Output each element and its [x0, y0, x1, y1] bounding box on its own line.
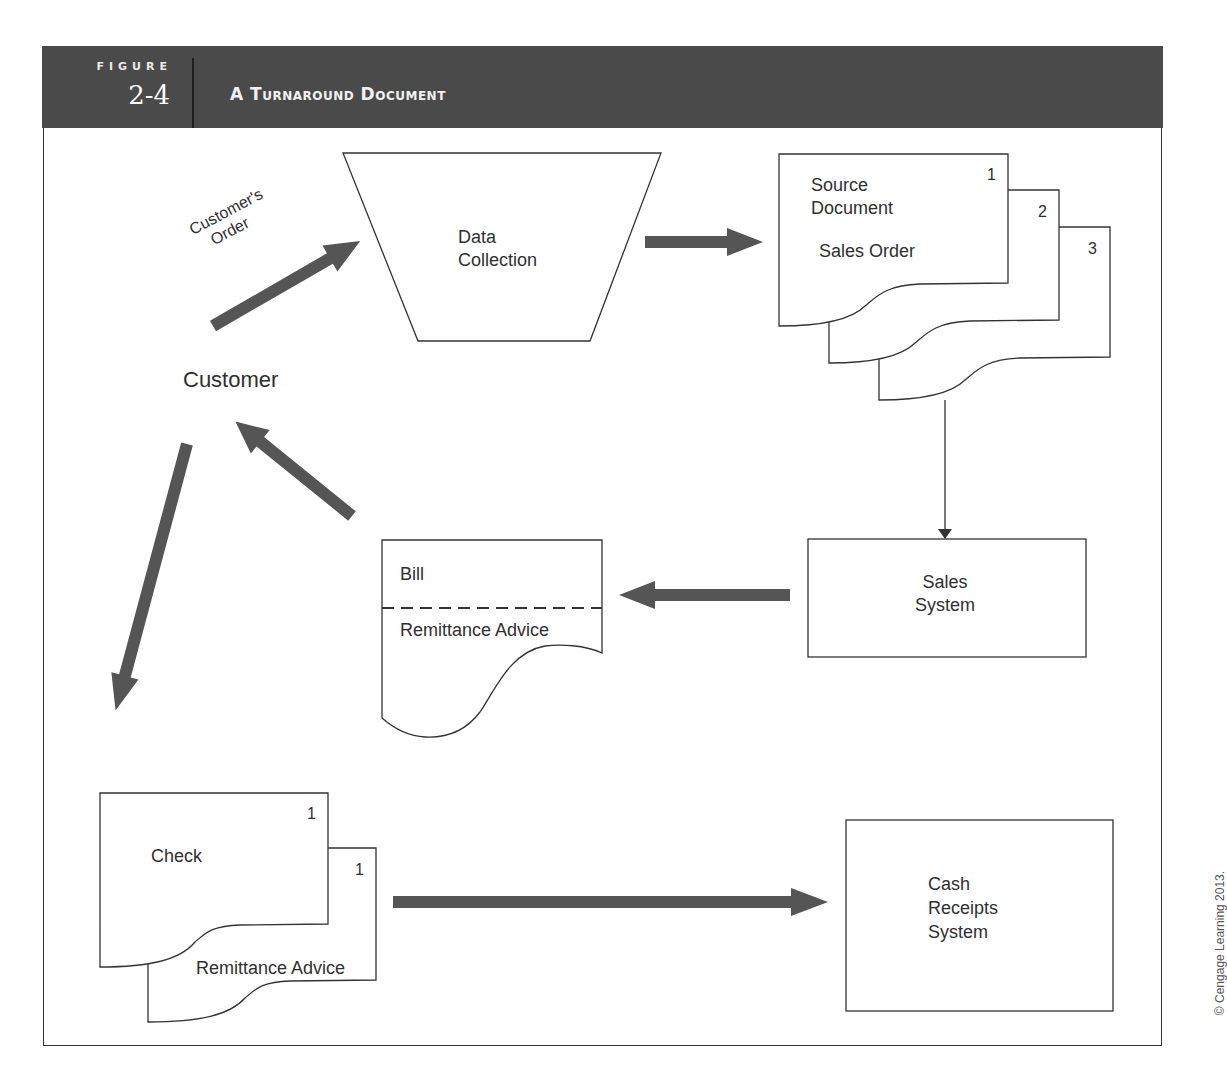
- cash-receipts-line-1: Cash: [928, 872, 998, 896]
- bill-to-customer-arrow-icon: [226, 410, 361, 528]
- cash-receipts-label: Cash Receipts System: [928, 872, 998, 944]
- copyright-notice: © Cengage Learning 2013.: [1213, 858, 1227, 1028]
- cash-receipts-line-2: Receipts: [928, 896, 998, 920]
- check-copy-number: 1: [307, 802, 316, 825]
- check-label: Check: [151, 845, 202, 868]
- data-collection-line-1: Data: [458, 226, 537, 249]
- sales-system-label: Sales System: [880, 571, 1010, 617]
- sales-system-line-1: Sales: [880, 571, 1010, 594]
- cash-receipts-line-3: System: [928, 920, 998, 944]
- source-document-line-2: Document: [811, 197, 893, 220]
- copy-number-3: 3: [1088, 237, 1097, 260]
- bill-remittance-label: Remittance Advice: [400, 619, 549, 642]
- sales-order-label: Sales Order: [819, 240, 915, 263]
- sales-system-line-2: System: [880, 594, 1010, 617]
- to-cash-receipts-arrow-icon: [393, 888, 828, 916]
- data-collection-label: Data Collection: [458, 226, 537, 272]
- bill-label: Bill: [400, 563, 424, 586]
- source-document-title: Source Document: [811, 174, 893, 220]
- remittance-copy-number: 1: [355, 858, 364, 881]
- copy-number-1: 1: [987, 163, 996, 186]
- to-source-document-arrow-icon: [645, 228, 763, 256]
- to-bill-arrow-icon: [619, 581, 790, 609]
- source-document-line-1: Source: [811, 174, 893, 197]
- customer-entity-label: Customer: [183, 368, 278, 391]
- customer-to-check-arrow-icon: [102, 440, 200, 714]
- check-remittance-label: Remittance Advice: [196, 957, 345, 980]
- copy-number-2: 2: [1038, 200, 1047, 223]
- customer-order-arrow-icon: [206, 228, 368, 339]
- data-collection-line-2: Collection: [458, 249, 537, 272]
